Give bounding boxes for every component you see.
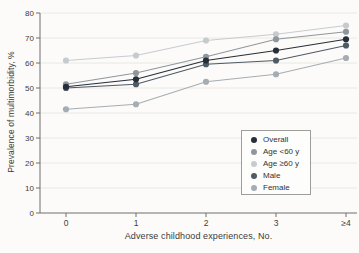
x-tick-label: ≥4 — [341, 218, 351, 228]
legend-item-female: Female — [251, 182, 310, 194]
data-point-female — [63, 106, 69, 112]
data-point-age-60-y — [203, 37, 209, 43]
legend-dot-overall-icon — [251, 137, 257, 143]
y-tick-label: 30 — [25, 134, 34, 143]
legend-dot-male-icon — [251, 173, 257, 179]
y-tick-label: 10 — [25, 184, 34, 193]
y-tick-label: 0 — [30, 209, 35, 218]
line-chart-figure: 010203040506070800123≥4 Prevalence of mu… — [0, 0, 359, 253]
data-point-age-60-y — [343, 29, 349, 35]
data-point-male — [273, 57, 279, 63]
legend-label-female: Female — [263, 184, 290, 192]
legend-label-age-ge-60: Age ≥60 y — [263, 160, 299, 168]
legend-dot-age-ge-60-icon — [251, 161, 257, 167]
data-point-age-60-y — [133, 52, 139, 58]
data-point-female — [273, 71, 279, 77]
data-point-overall — [133, 76, 139, 82]
data-point-male — [343, 42, 349, 48]
y-tick-label: 70 — [25, 34, 34, 43]
legend-dot-female-icon — [251, 185, 257, 191]
data-point-age-60-y — [133, 70, 139, 76]
data-point-overall — [343, 36, 349, 42]
y-tick-label: 80 — [25, 9, 34, 18]
data-point-overall — [63, 84, 69, 90]
y-tick-label: 40 — [25, 109, 34, 118]
x-axis-title: Adverse childhood experiences, No. — [40, 231, 357, 241]
data-point-age-60-y — [63, 57, 69, 63]
legend-item-male: Male — [251, 170, 310, 182]
legend-item-overall: Overall — [251, 134, 310, 146]
data-point-age-60-y — [273, 36, 279, 42]
legend-item-age-lt-60: Age <60 y — [251, 146, 310, 158]
x-tick-label: 1 — [134, 218, 139, 228]
data-point-overall — [273, 47, 279, 53]
legend-item-age-ge-60: Age ≥60 y — [251, 158, 310, 170]
y-tick-label: 60 — [25, 59, 34, 68]
x-tick-label: 0 — [64, 218, 69, 228]
x-tick-label: 3 — [274, 218, 279, 228]
data-point-female — [133, 101, 139, 107]
chart-plot-area: 010203040506070800123≥4 — [0, 0, 359, 253]
legend-label-age-lt-60: Age <60 y — [263, 148, 299, 156]
x-tick-label: 2 — [204, 218, 209, 228]
data-point-overall — [203, 57, 209, 63]
legend: Overall Age <60 y Age ≥60 y Male Female — [241, 130, 311, 195]
legend-label-overall: Overall — [263, 136, 288, 144]
legend-dot-age-lt-60-icon — [251, 149, 257, 155]
y-tick-label: 20 — [25, 159, 34, 168]
y-axis-title: Prevalence of multimorbidity, % — [6, 51, 16, 173]
y-tick-label: 50 — [25, 84, 34, 93]
data-point-female — [203, 79, 209, 85]
data-point-female — [343, 55, 349, 61]
legend-label-male: Male — [263, 172, 280, 180]
data-point-age-60-y — [343, 22, 349, 28]
